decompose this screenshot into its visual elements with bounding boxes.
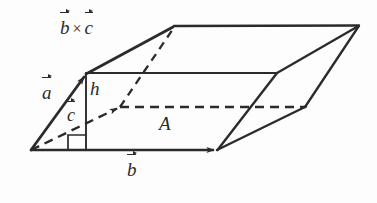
vector-c-symbol: c <box>67 106 75 124</box>
label-height: h <box>90 79 100 98</box>
vector-arrow-tip <box>133 151 137 155</box>
vector-c-symbol: c <box>85 18 93 37</box>
vector-arrow-tip <box>89 9 93 13</box>
top-face-back-edge <box>174 26 359 27</box>
label-cross-product-first: b <box>60 17 70 38</box>
label-vector-b: b <box>127 160 137 179</box>
right-angle-marker <box>68 135 86 150</box>
label-vector-c-text: c <box>67 105 75 125</box>
top-face-right-edge <box>277 26 359 73</box>
front-right-face-edge <box>218 73 278 150</box>
vector-a-arrow <box>31 77 84 150</box>
label-vector-a: a <box>42 83 52 102</box>
vector-arrow-tip <box>66 9 70 13</box>
label-vector-b-text: b <box>127 159 137 180</box>
hidden-vertical-diagonal <box>120 26 175 107</box>
base-right-edge <box>217 107 306 151</box>
cross-operator-symbol: × <box>70 20 85 37</box>
vector-a-symbol: a <box>42 83 52 102</box>
vector-b-symbol: b <box>127 160 137 179</box>
label-area: A <box>159 114 171 133</box>
cross-product-arrow <box>86 27 173 74</box>
label-vector-a-text: a <box>42 82 52 103</box>
parallelepiped-drawing <box>0 0 377 203</box>
parallelepiped-figure: b×c a c h A b <box>0 0 377 203</box>
label-cross-product: b×c <box>60 18 93 37</box>
vector-arrow-tip <box>71 98 75 102</box>
vector-b-symbol: b <box>60 18 70 37</box>
hidden-right-edge-solid-part <box>305 27 359 108</box>
vector-arrow-tip <box>48 74 52 78</box>
label-vector-c: c <box>67 106 75 124</box>
label-cross-product-second: c <box>85 17 93 38</box>
